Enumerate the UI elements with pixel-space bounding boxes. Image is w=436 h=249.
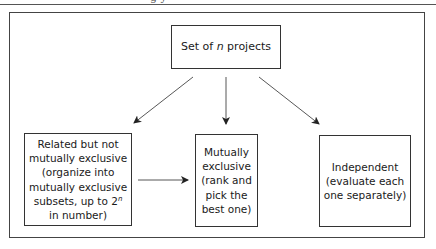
node-set-of-projects: Set of n projects <box>171 25 281 69</box>
mutex-line: exclusive <box>201 159 252 173</box>
mutex-line: (rank and <box>201 173 252 187</box>
related-line: mutually exclusive <box>29 151 127 165</box>
exponent: n <box>118 194 122 202</box>
related-line: mutually exclusive <box>29 180 127 194</box>
mutex-line: Mutually <box>201 145 252 159</box>
related-line: in number) <box>29 208 127 222</box>
root-variable: n <box>217 40 224 53</box>
related-line-with-exponent: subsets, up to 2n <box>29 194 127 208</box>
independent-line: (evaluate each <box>324 174 406 188</box>
node-independent: Independent (evaluate each one separatel… <box>319 135 411 227</box>
independent-line: Independent <box>324 160 406 174</box>
node-mutually-exclusive: Mutually exclusive (rank and pick the be… <box>195 134 258 227</box>
root-suffix: projects <box>224 40 271 53</box>
arrow-root-to-independent <box>259 77 319 124</box>
root-prefix: Set of <box>181 40 217 53</box>
related-line: (organize into <box>29 165 127 179</box>
independent-line: one separately) <box>324 188 406 202</box>
mutex-line: best one) <box>201 202 252 216</box>
arrow-root-to-related <box>134 77 193 123</box>
mutex-line: pick the <box>201 188 252 202</box>
node-related-not-mutually-exclusive: Related but not mutually exclusive (orga… <box>24 133 132 226</box>
related-line: Related but not <box>29 137 127 151</box>
